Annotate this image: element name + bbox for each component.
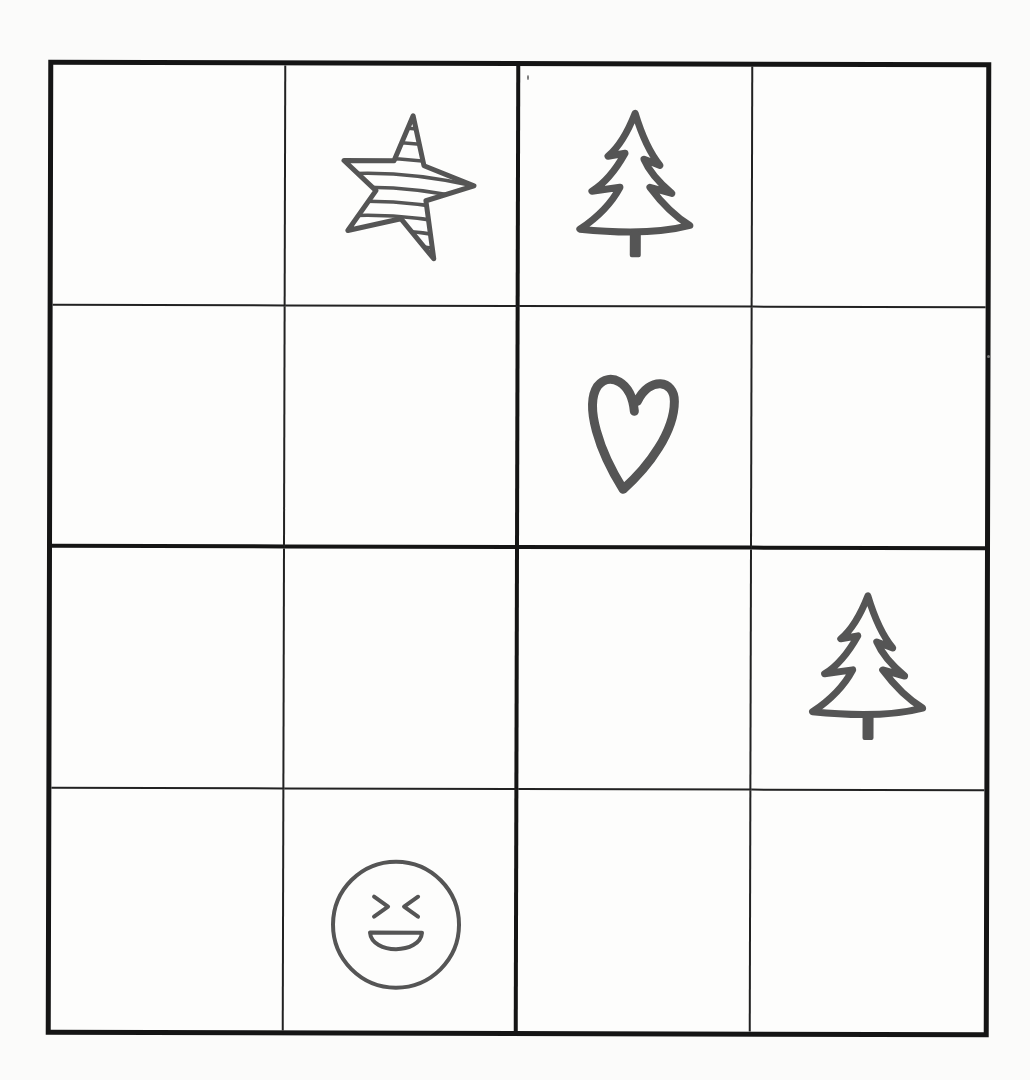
sudoku-cell-r1-c3[interactable] xyxy=(519,66,753,308)
smiley-icon xyxy=(314,815,484,1005)
sudoku-cell-r3-c3[interactable] xyxy=(518,549,752,791)
paper-speck xyxy=(527,75,529,80)
heart-icon xyxy=(549,331,719,521)
sudoku-board xyxy=(46,60,992,1037)
sudoku-cell-r3-c1[interactable] xyxy=(51,547,285,789)
tree-icon xyxy=(783,574,953,764)
star-icon xyxy=(316,90,486,280)
sudoku-cell-r4-c3[interactable] xyxy=(517,790,751,1032)
tree-icon xyxy=(550,91,720,281)
sudoku-cell-r2-c3[interactable] xyxy=(519,307,753,549)
sudoku-cell-r3-c4[interactable] xyxy=(751,549,985,791)
sudoku-cell-r2-c2[interactable] xyxy=(285,307,519,549)
sudoku-grid xyxy=(51,65,987,1032)
sudoku-cell-r1-c4[interactable] xyxy=(752,67,986,309)
sudoku-cell-r1-c1[interactable] xyxy=(53,65,287,307)
paper-speck xyxy=(987,355,990,358)
sudoku-cell-r4-c4[interactable] xyxy=(750,790,984,1032)
sudoku-cell-r4-c2[interactable] xyxy=(284,789,518,1031)
sudoku-cell-r2-c1[interactable] xyxy=(52,306,286,548)
sudoku-cell-r1-c2[interactable] xyxy=(286,65,520,307)
sudoku-cell-r2-c4[interactable] xyxy=(752,308,986,550)
sudoku-cell-r4-c1[interactable] xyxy=(51,789,285,1031)
sudoku-cell-r3-c2[interactable] xyxy=(285,548,519,790)
